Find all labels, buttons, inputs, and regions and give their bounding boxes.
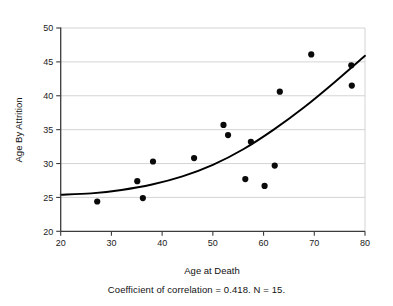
data-point-7 [242,176,248,182]
data-point-0 [94,198,100,204]
scatter-plot-figure: 20304050607080 20253035404550 Age at Dea… [0,0,393,306]
data-point-12 [308,51,314,57]
x-tick-label-60: 60 [259,238,269,248]
data-point-1 [134,178,140,184]
y-tick-label-40: 40 [43,91,53,101]
trend-line-path [61,56,365,195]
data-points-group [94,51,355,204]
y-tick-label-35: 35 [43,125,53,135]
x-tick-label-20: 20 [56,238,66,248]
data-point-6 [225,132,231,138]
data-point-13 [348,62,354,68]
x-axis-title: Age at Death [184,265,239,276]
x-tick-label-50: 50 [208,238,218,248]
data-point-9 [261,183,267,189]
y-tick-label-45: 45 [43,57,53,67]
data-point-11 [277,89,283,95]
y-axis-title: Age By Attrition [13,98,24,163]
data-point-8 [248,139,254,145]
data-point-3 [150,158,156,164]
gridlines-group [61,28,365,197]
x-tick-label-30: 30 [106,238,116,248]
x-axis-ticks: 20304050607080 [56,231,370,248]
regression-curve [61,56,365,195]
y-tick-label-30: 30 [43,159,53,169]
x-tick-label-40: 40 [157,238,167,248]
y-axis-ticks: 20253035404550 [43,23,61,236]
x-tick-label-80: 80 [360,238,370,248]
x-tick-label-70: 70 [309,238,319,248]
y-tick-label-20: 20 [43,227,53,237]
y-tick-label-50: 50 [43,23,53,33]
data-point-4 [191,155,197,161]
chart-canvas: 20304050607080 20253035404550 Age at Dea… [0,0,393,306]
data-point-5 [220,122,226,128]
figure-caption: Coefficient of correlation = 0.418. N = … [0,284,393,295]
data-point-2 [140,195,146,201]
y-tick-label-25: 25 [43,193,53,203]
data-point-10 [272,162,278,168]
data-point-14 [349,83,355,89]
